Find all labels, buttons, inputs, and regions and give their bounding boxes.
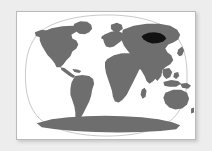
- world-locator-map-figure: Mongolia: [0, 0, 212, 151]
- map-svg: [17, 12, 195, 139]
- land-new-zealand: [191, 107, 194, 113]
- map-panel: Mongolia: [16, 11, 196, 140]
